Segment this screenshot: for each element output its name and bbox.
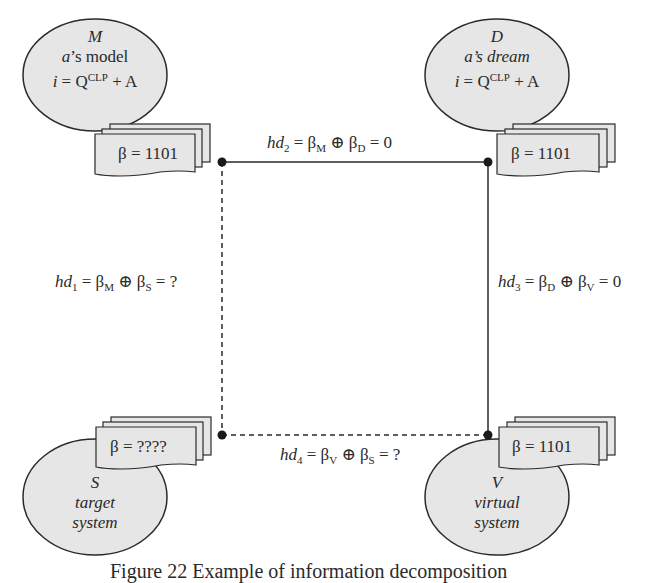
node-d-equation: i = QCLP + A xyxy=(425,67,569,92)
node-m-title: a’s model xyxy=(23,47,167,67)
node-s-beta: β = ???? xyxy=(110,437,167,457)
figure-caption: Figure 22 Example of information decompo… xyxy=(110,560,507,583)
node-v-beta: β = 1101 xyxy=(512,437,572,457)
node-d-beta: β = 1101 xyxy=(511,144,571,164)
node-s-label: S target system xyxy=(23,473,167,533)
node-m-label: M a’s model i = QCLP + A xyxy=(23,27,167,92)
junction-dot-s xyxy=(218,431,227,440)
junction-dot-m xyxy=(218,158,227,167)
junction-dot-d xyxy=(484,158,493,167)
node-s-line2: system xyxy=(23,513,167,533)
node-d-symbol: D xyxy=(425,27,569,47)
edge-label-hd4: hd4 = βV ⊕ βS = ? xyxy=(280,446,400,466)
node-m-beta: β = 1101 xyxy=(118,144,178,164)
node-d-title: a’s dream xyxy=(425,47,569,67)
edge-label-hd1: hd1 = βM ⊕ βS = ? xyxy=(55,273,177,293)
node-v-label: V virtual system xyxy=(425,473,569,533)
edge-label-hd2: hd2 = βM ⊕ βD = 0 xyxy=(267,134,392,154)
node-s-line1: target xyxy=(23,493,167,513)
junction-dot-v xyxy=(484,431,493,440)
node-v-symbol: V xyxy=(425,473,569,493)
node-d-label: D a’s dream i = QCLP + A xyxy=(425,27,569,92)
node-m-equation: i = QCLP + A xyxy=(23,67,167,92)
node-v-line1: virtual xyxy=(425,493,569,513)
node-s-symbol: S xyxy=(23,473,167,493)
node-v-line2: system xyxy=(425,513,569,533)
edge-label-hd3: hd3 = βD ⊕ βV = 0 xyxy=(498,273,621,293)
node-m-symbol: M xyxy=(23,27,167,47)
